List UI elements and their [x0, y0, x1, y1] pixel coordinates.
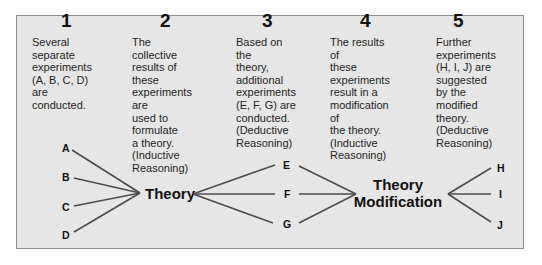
edges-second-to-modification — [299, 166, 356, 223]
edges-theory-to-second — [193, 165, 275, 223]
theory-node: Theory — [145, 185, 196, 202]
experiment-j: J — [497, 219, 503, 231]
edges-modification-to-further — [448, 168, 491, 222]
experiment-h: H — [497, 162, 505, 174]
experiment-b: B — [62, 171, 70, 183]
experiment-a: A — [62, 142, 70, 154]
experiment-i: I — [499, 188, 502, 200]
reasoning-flow-diagram: A B C D Theory E F G Theory Modification… — [0, 0, 542, 265]
experiment-f: F — [284, 188, 291, 200]
theory-modification-node-line2: Modification — [354, 193, 442, 210]
edges-initial-to-theory — [72, 150, 140, 232]
experiment-g: G — [283, 218, 291, 230]
experiment-e: E — [283, 159, 290, 171]
experiment-c: C — [62, 201, 70, 213]
experiment-d: D — [62, 229, 70, 241]
theory-modification-node-line1: Theory — [373, 176, 424, 193]
